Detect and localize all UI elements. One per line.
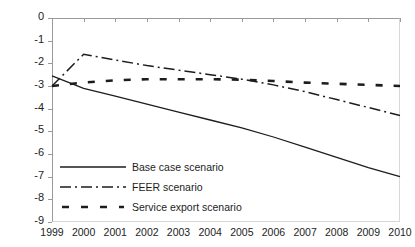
- legend-label: Base case scenario: [132, 161, 224, 173]
- legend-label: Service export scenario: [132, 201, 242, 213]
- series-line: [52, 54, 400, 115]
- chart-figure: percentage of 0-1-2-3-4-5-6-7-8-9 199920…: [0, 0, 415, 247]
- legend-key-dashed: [58, 197, 128, 217]
- legend-key-dashdot: [58, 177, 128, 197]
- legend-key-solid: [58, 157, 128, 177]
- series-line: [52, 79, 400, 86]
- legend-label: FEER scenario: [132, 181, 203, 193]
